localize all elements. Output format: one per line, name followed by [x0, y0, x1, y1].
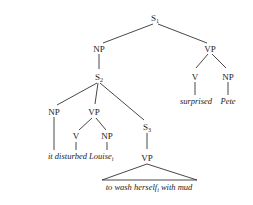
triangle-vp: [102, 164, 197, 180]
syntax-tree-diagram: S1 NP VP S2 V NP surprised Pete NP VP S3…: [0, 0, 253, 205]
node-v-mid: V: [73, 131, 80, 141]
edge-vp-np2: [96, 118, 106, 130]
edge-s1-np: [103, 24, 153, 43]
node-s3: S3: [143, 122, 151, 133]
leaf-disturbed: disturbed: [55, 151, 88, 161]
node-s2: S2: [95, 72, 103, 83]
node-vp-top: VP: [204, 44, 216, 54]
edge-s2-np: [57, 83, 97, 105]
edge-vp-v2: [79, 118, 92, 130]
leaf-louise: Louise: [88, 151, 112, 161]
leaf-surprised: surprised: [180, 96, 213, 106]
node-s1: S1: [151, 13, 159, 24]
edge-vp-np: [212, 54, 226, 68]
node-v-top: V: [192, 72, 199, 82]
node-np-louise: NP: [101, 131, 113, 141]
leaf-row-it-disturbed-louise: it disturbed Louisei: [48, 151, 114, 162]
node-np-top: NP: [93, 44, 105, 54]
edge-s2-s3: [100, 83, 144, 120]
node-vp-mid: VP: [88, 107, 100, 117]
leaf-pete: Pete: [219, 96, 235, 106]
edge-vp-v: [196, 54, 208, 68]
leaf-triangle-phrase: to wash herselfi with mud: [106, 182, 193, 193]
node-np-pete: NP: [222, 72, 234, 82]
edge-s2-vp: [95, 83, 98, 104]
edge-s1-vp: [158, 24, 207, 43]
leaf-it: it: [48, 151, 53, 161]
node-vp-low: VP: [141, 153, 153, 163]
node-np-it: NP: [48, 107, 60, 117]
